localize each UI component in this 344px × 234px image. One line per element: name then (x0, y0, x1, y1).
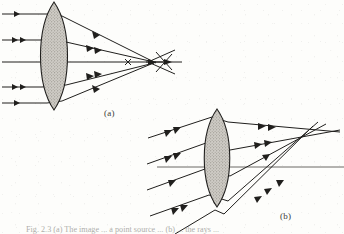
panel-b-incoming-arrowheads (164, 127, 188, 215)
ray-arrowhead (168, 180, 176, 187)
panel-label-a: (a) (104, 108, 115, 118)
ray-arrowhead (94, 47, 102, 54)
panel-b-refracted-rays (224, 122, 340, 214)
ray-arrowhead (164, 59, 172, 65)
refracted-ray (62, 62, 156, 101)
refracted-ray (224, 126, 313, 214)
ray-arrowhead (12, 37, 18, 43)
ray-arrowhead (276, 180, 284, 187)
ray-diagram-canvas (0, 0, 344, 234)
panel-b-incoming-rays (147, 117, 215, 234)
ray-arrowhead (164, 156, 172, 163)
lens-body-a (41, 2, 68, 110)
ray-arrowhead (14, 100, 20, 106)
lens-body-b (204, 109, 230, 207)
ray-arrowhead (20, 37, 26, 43)
diverging-ray (148, 50, 175, 62)
refracted-ray (230, 124, 326, 176)
figure-caption: Fig. 2.3 (a) The image ... a point sourc… (26, 225, 338, 234)
refracted-ray (66, 63, 154, 85)
panel-label-b: (b) (280, 211, 291, 221)
ray-arrowhead (20, 84, 26, 90)
ray-arrowhead (86, 45, 94, 52)
ray-arrowhead (92, 31, 100, 39)
ray-arrowhead (258, 123, 266, 130)
ray-arrowhead (164, 130, 172, 137)
incoming-ray (150, 195, 209, 216)
refracted-ray (228, 122, 340, 132)
ray-arrowhead (264, 188, 272, 195)
ray-arrowhead (264, 140, 272, 147)
diverging-ray (148, 62, 175, 74)
refracted-ray (66, 42, 154, 62)
panel-b-refracted-arrowheads (254, 123, 284, 203)
ray-arrowhead (173, 127, 181, 134)
ray-arrowhead (14, 11, 20, 17)
figure-root: (a) (b) Fig. 2.3 (a) The image ... a poi… (0, 0, 344, 234)
ray-arrowhead (12, 84, 18, 90)
internal-ray (215, 210, 224, 214)
ray-arrowhead (171, 208, 179, 215)
panel-a-refracted-rays (62, 16, 166, 101)
panel-a-group (2, 2, 182, 110)
ray-arrowhead (254, 142, 262, 149)
refracted-ray (62, 16, 156, 63)
incoming-ray (147, 169, 205, 190)
refracted-ray (230, 130, 340, 150)
ray-arrowhead (173, 153, 181, 160)
ray-arrowhead (268, 124, 276, 131)
panel-b-group (147, 109, 344, 234)
ray-arrowhead (254, 196, 262, 203)
panel-a-incoming-arrowheads (12, 11, 26, 106)
ray-arrowhead (180, 205, 188, 212)
